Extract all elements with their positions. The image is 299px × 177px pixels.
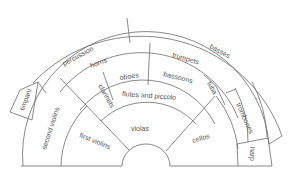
label-oboes: oboes	[119, 71, 139, 81]
label-trombones: trombones	[235, 102, 255, 136]
basses-bottom-edge	[269, 136, 282, 144]
label-horns: horns	[89, 56, 108, 69]
percussion-basses-divider	[127, 18, 130, 43]
seating-chart-svg: percussion basses timpani horns trumpets…	[0, 0, 299, 177]
label-flutes: flutes and piccolo	[122, 90, 177, 102]
harp-top-edge	[237, 138, 268, 144]
label-second-violins: second violins	[40, 106, 60, 150]
label-harp: harp	[248, 147, 256, 161]
podium-arc	[122, 144, 170, 166]
label-cellos: cellos	[191, 132, 211, 144]
orchestra-seating-diagram: percussion basses timpani horns trumpets…	[0, 0, 299, 177]
label-violas: violas	[131, 125, 149, 132]
right-radial-divider	[166, 96, 215, 151]
cellos-outer-arc	[216, 96, 238, 149]
horns-trumpets-divider	[149, 43, 150, 62]
label-trumpets: trumpets	[171, 51, 200, 66]
label-first-violins: first violins	[79, 131, 112, 150]
arc-123	[23, 32, 269, 166]
label-bassoons: bassoons	[163, 70, 194, 84]
label-clarinets: clarinets	[97, 83, 116, 110]
label-tuba: tuba	[206, 80, 219, 95]
tuba-bottom-edge	[226, 89, 236, 93]
oboes-bassoons-divider	[148, 62, 149, 85]
